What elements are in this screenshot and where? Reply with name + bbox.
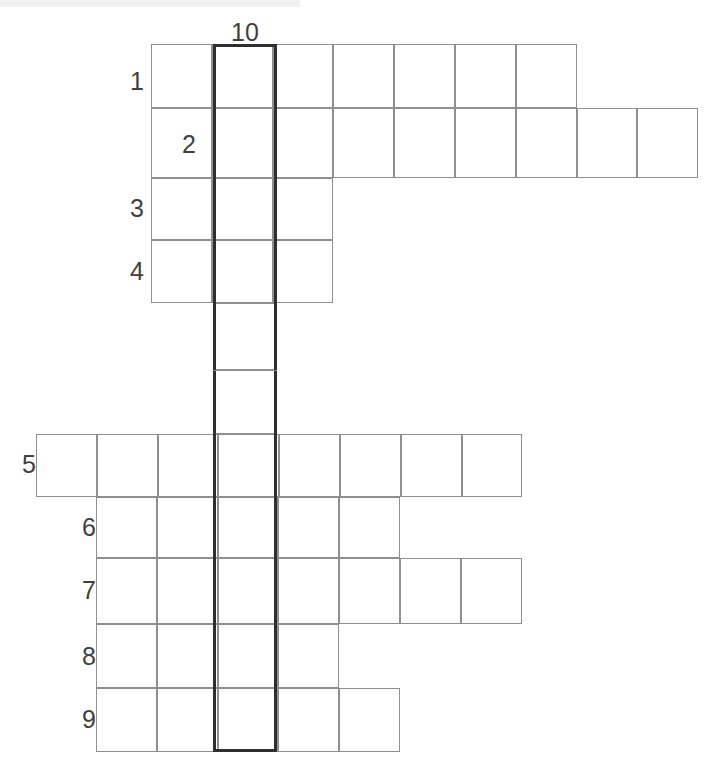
grid-cell[interactable] bbox=[218, 558, 279, 624]
grid-cell[interactable] bbox=[212, 178, 273, 240]
row-number-label: 2 bbox=[156, 132, 196, 157]
grid-cell[interactable] bbox=[96, 558, 157, 624]
grid-cell[interactable] bbox=[278, 558, 339, 624]
grid-cell[interactable] bbox=[462, 434, 523, 497]
column-number-label: 10 bbox=[213, 20, 277, 45]
grid-cell[interactable] bbox=[394, 108, 455, 178]
grid-cell[interactable] bbox=[333, 44, 394, 108]
grid-cell[interactable] bbox=[455, 44, 516, 108]
grid-cell[interactable] bbox=[157, 688, 218, 752]
grid-cell[interactable] bbox=[96, 624, 157, 688]
grid-cell[interactable] bbox=[273, 108, 334, 178]
grid-cell[interactable] bbox=[278, 624, 339, 688]
grid-cell[interactable] bbox=[273, 178, 334, 240]
grid-cell[interactable] bbox=[401, 434, 462, 497]
grid-cell[interactable] bbox=[157, 497, 218, 558]
grid-cell[interactable] bbox=[278, 497, 339, 558]
grid-cell[interactable] bbox=[273, 44, 334, 108]
highlight-column-bottom-edge bbox=[213, 749, 277, 752]
row-number-label: 9 bbox=[56, 707, 96, 732]
grid-cell[interactable] bbox=[157, 624, 218, 688]
grid-cell[interactable] bbox=[213, 303, 277, 370]
grid-cell[interactable] bbox=[278, 688, 339, 752]
grid-cell[interactable] bbox=[333, 108, 394, 178]
grid-cell[interactable] bbox=[516, 108, 577, 178]
grid-cell[interactable] bbox=[340, 434, 401, 497]
crossword-puzzle: 12345678910 bbox=[0, 0, 719, 763]
grid-cell[interactable] bbox=[96, 688, 157, 752]
grid-cell[interactable] bbox=[577, 108, 638, 178]
grid-cell[interactable] bbox=[212, 44, 273, 108]
grid-cell[interactable] bbox=[36, 434, 97, 497]
grid-cell[interactable] bbox=[212, 108, 273, 178]
grid-cell[interactable] bbox=[218, 434, 279, 497]
grid-cell[interactable] bbox=[273, 240, 334, 303]
grid-cell[interactable] bbox=[279, 434, 340, 497]
grid-cell[interactable] bbox=[97, 434, 158, 497]
grid-cell[interactable] bbox=[455, 108, 516, 178]
row-number-label: 7 bbox=[56, 578, 96, 603]
highlight-column-top-edge bbox=[213, 44, 277, 47]
grid-cell[interactable] bbox=[157, 558, 218, 624]
grid-cell[interactable] bbox=[339, 558, 400, 624]
row-number-label: 8 bbox=[56, 644, 96, 669]
highlight-column-cell-divider bbox=[213, 370, 277, 371]
grid-cell[interactable] bbox=[96, 497, 157, 558]
grid-cell[interactable] bbox=[158, 434, 219, 497]
row-number-label: 1 bbox=[104, 69, 144, 94]
grid-cell[interactable] bbox=[339, 497, 400, 558]
grid-cell[interactable] bbox=[637, 108, 698, 178]
row-number-label: 3 bbox=[104, 196, 144, 221]
grid-cell[interactable] bbox=[516, 44, 577, 108]
row-number-label: 5 bbox=[0, 452, 36, 477]
scan-artifact bbox=[0, 0, 300, 7]
grid-cell[interactable] bbox=[461, 558, 522, 624]
row-number-label: 4 bbox=[104, 259, 144, 284]
grid-cell[interactable] bbox=[400, 558, 461, 624]
grid-cell[interactable] bbox=[218, 497, 279, 558]
grid-cell[interactable] bbox=[394, 44, 455, 108]
grid-cell[interactable] bbox=[213, 370, 277, 434]
grid-cell[interactable] bbox=[151, 178, 212, 240]
grid-cell[interactable] bbox=[151, 240, 212, 303]
grid-cell[interactable] bbox=[218, 624, 279, 688]
grid-cell[interactable] bbox=[339, 688, 400, 752]
grid-cell[interactable] bbox=[151, 44, 212, 108]
row-number-label: 6 bbox=[56, 515, 96, 540]
grid-cell[interactable] bbox=[212, 240, 273, 303]
grid-cell[interactable] bbox=[218, 688, 279, 752]
